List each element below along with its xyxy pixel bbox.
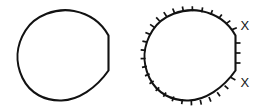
upper-corner-label: X [241, 18, 250, 33]
boundary-hatch-ticks [141, 6, 241, 105]
left-plain-closed-curve [18, 10, 109, 100]
right-hatched-closed-curve: X X [141, 6, 250, 105]
left-curve-outline [18, 10, 109, 100]
right-curve-outline [145, 10, 236, 100]
lower-corner-label: X [241, 75, 250, 90]
geometry-figure-svg: X X [0, 0, 271, 110]
figure-canvas: X X [0, 0, 271, 110]
